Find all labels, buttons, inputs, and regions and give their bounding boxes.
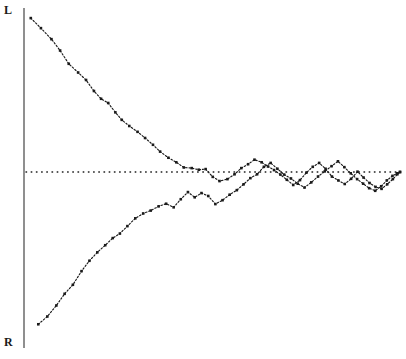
convergence-chart: L R bbox=[0, 0, 406, 359]
series-lower-curve bbox=[37, 160, 401, 326]
axis-label-top: L bbox=[4, 4, 12, 16]
chart-plot-area bbox=[0, 0, 406, 359]
axis-label-bottom: R bbox=[4, 336, 13, 348]
series-upper-curve bbox=[29, 17, 401, 190]
